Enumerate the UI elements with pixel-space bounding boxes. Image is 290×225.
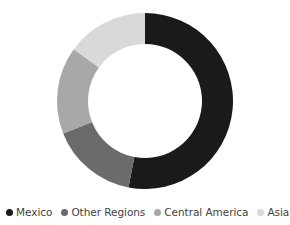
legend-item[interactable]: Central America xyxy=(154,206,248,218)
chart-plot-area xyxy=(0,0,290,196)
legend-item-label: Other Regions xyxy=(71,206,145,218)
legend-item[interactable]: Mexico xyxy=(6,206,52,218)
donut-chart: MexicoOther RegionsCentral AmericaAsia xyxy=(0,0,290,225)
legend-item-label: Mexico xyxy=(16,206,52,218)
circle-dot-icon xyxy=(61,209,68,216)
circle-dot-icon xyxy=(154,209,161,216)
legend-item-label: Central America xyxy=(164,206,248,218)
circle-dot-icon xyxy=(257,209,264,216)
legend-item[interactable]: Other Regions xyxy=(61,206,145,218)
legend-item-label: Asia xyxy=(267,206,289,218)
donut-slice-group xyxy=(57,13,233,189)
circle-dot-icon xyxy=(6,209,13,216)
donut-svg xyxy=(0,0,290,196)
chart-legend: MexicoOther RegionsCentral AmericaAsia xyxy=(0,199,290,225)
donut-slice[interactable] xyxy=(63,122,134,187)
legend-item[interactable]: Asia xyxy=(257,206,289,218)
